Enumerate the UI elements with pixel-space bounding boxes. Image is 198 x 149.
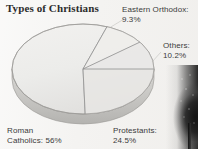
pie-label-eastern-orthodox-name: Eastern Orthodox: — [122, 5, 189, 15]
pie-label-roman-catholics: Roman Catholics: 56% — [7, 126, 62, 146]
pie-label-others: Others: 10.2% — [163, 41, 190, 61]
pie-label-roman-catholics-name: Roman — [7, 126, 62, 136]
pie-label-eastern-orthodox-value: 9.3% — [122, 15, 189, 25]
pie-label-protestants: Protestants: 24.5% — [113, 126, 157, 146]
tree-photo-fragment — [164, 65, 198, 149]
pie-label-protestants-name: Protestants: — [113, 126, 157, 136]
pie-label-protestants-value: 24.5% — [113, 136, 157, 146]
pie-chart-figure: Types of Christians — [0, 0, 198, 149]
pie-label-others-value: 10.2% — [163, 51, 190, 61]
foliage-texture — [176, 71, 198, 133]
pie-label-others-name: Others: — [163, 41, 190, 51]
pie-label-roman-catholics-value: Catholics: 56% — [7, 136, 62, 146]
tree-trunk — [188, 123, 191, 149]
page-title: Types of Christians — [6, 2, 99, 14]
pie-label-eastern-orthodox: Eastern Orthodox: 9.3% — [122, 5, 189, 25]
